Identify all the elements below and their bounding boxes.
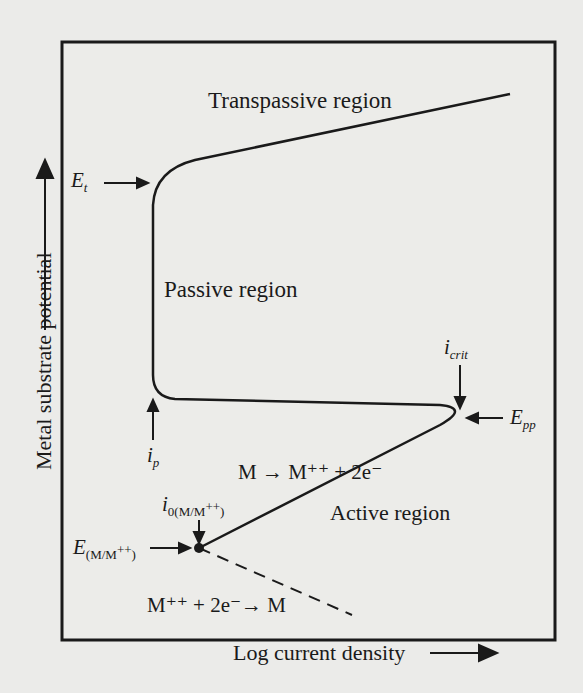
anodic-reaction-label: M → M⁺⁺ + 2e⁻ <box>238 460 382 485</box>
cathodic-reaction-label: M⁺⁺ + 2e⁻→ M <box>147 593 286 618</box>
i-p-label: ip <box>147 443 159 471</box>
e-eq-label: E(M/M++) <box>73 535 136 563</box>
x-axis-label: Log current density <box>233 640 405 666</box>
i0-label: i0(M/M++) <box>162 492 224 520</box>
passive-region-label: Passive region <box>164 277 298 303</box>
i-crit-label: icrit <box>444 335 468 363</box>
plot-frame <box>62 42 555 640</box>
y-axis-label: Metal substrate potential <box>31 253 57 471</box>
e-pp-label: Epp <box>510 405 536 433</box>
transpassive-region-label: Transpassive region <box>208 88 392 114</box>
e-t-label: Et <box>71 168 87 196</box>
active-region-label: Active region <box>330 500 450 526</box>
